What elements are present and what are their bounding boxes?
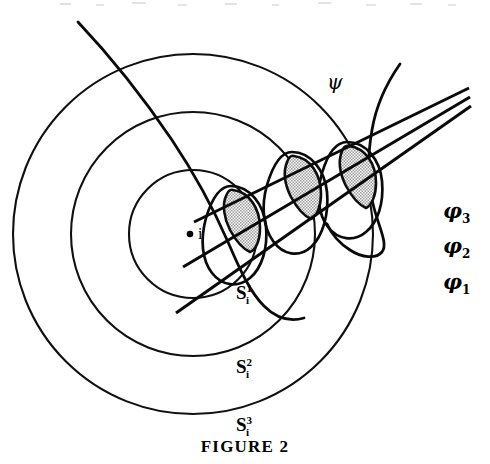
phi-line-2 (183, 97, 470, 267)
phi-label-2-sub: 2 (462, 247, 470, 261)
scan-artifacts (60, 2, 456, 6)
sphere-label-2-sup: 2 (247, 356, 253, 368)
sphere-label-1-sub: i (246, 294, 249, 306)
center-point-label: i (198, 226, 202, 242)
psi-curve (78, 22, 304, 320)
sphere-label-1-sup: 1 (247, 282, 253, 294)
sphere-label-3-base: S (236, 414, 247, 435)
sphere-label-2-sub: i (246, 368, 249, 380)
sphere-label-1-base: S (236, 282, 247, 303)
phi-label-2-base: φ (443, 233, 462, 258)
phi-label-3: φ3 (443, 200, 470, 221)
phi-line-3 (194, 88, 469, 222)
sphere-label-3-sup: 3 (247, 414, 253, 426)
phi-label-3-sub: 3 (462, 212, 470, 226)
phi-label-1-base: φ (443, 269, 462, 294)
phi-label-1-sub: 1 (462, 283, 470, 297)
phi-label-3-base: φ (443, 198, 462, 223)
sphere-label-1: S1i (236, 283, 249, 302)
figure-caption: FIGURE 2 (0, 437, 490, 457)
sphere-label-2-base: S (236, 356, 247, 377)
phi-label-2: φ2 (443, 235, 470, 256)
figure-2-container: i ψ S1i S2i S3i φ3 φ2 φ1 FIGURE 2 (0, 0, 490, 464)
sphere-label-3-sub: i (246, 426, 249, 438)
phi-label-1: φ1 (443, 271, 470, 292)
sphere-label-3: S3i (236, 415, 249, 434)
sphere-label-2: S2i (236, 357, 249, 376)
psi-label: ψ (327, 72, 343, 92)
figure-drawing-canvas (0, 0, 490, 464)
center-point-dot (187, 231, 194, 238)
